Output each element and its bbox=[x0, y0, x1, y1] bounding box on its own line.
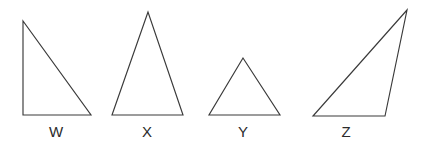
triangles-figure: W X Y Z bbox=[0, 0, 427, 146]
triangle-label-x: X bbox=[142, 124, 152, 139]
triangle-label-y: Y bbox=[238, 124, 248, 139]
triangle-z bbox=[313, 10, 407, 116]
triangle-label-w: W bbox=[49, 124, 63, 139]
triangle-w bbox=[23, 21, 91, 115]
triangle-label-z: Z bbox=[341, 124, 350, 139]
triangle-x bbox=[112, 12, 183, 115]
triangles-canvas bbox=[0, 0, 427, 146]
triangle-y bbox=[209, 58, 280, 115]
